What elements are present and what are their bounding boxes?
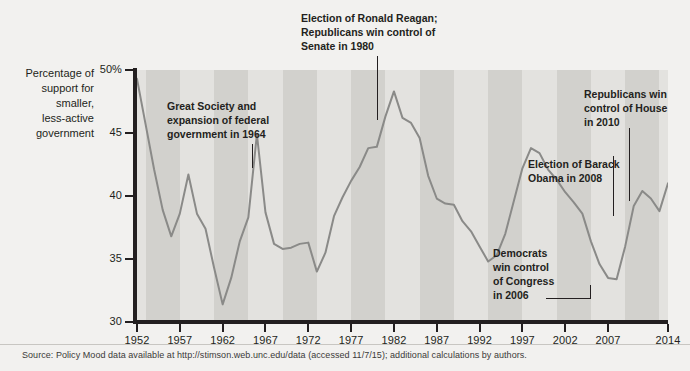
leader-line-obama bbox=[613, 156, 614, 216]
y-axis-tick-label: 45 bbox=[88, 126, 122, 138]
x-axis-tick bbox=[350, 324, 352, 332]
annotation-great-society: Great Society and expansion of federal g… bbox=[167, 99, 327, 141]
annotation-great-society-line-3: government in 1964 bbox=[167, 127, 327, 141]
y-axis-title-line-2: support for bbox=[8, 81, 94, 96]
y-axis-tick bbox=[125, 195, 133, 197]
source-note: Source: Policy Mood data available at ht… bbox=[22, 350, 527, 360]
annotation-republicans-house: Republicans win control of House in 2010 bbox=[584, 87, 684, 129]
annotation-democrats-line-1: Democrats bbox=[493, 246, 573, 260]
x-axis-tick bbox=[607, 324, 609, 332]
annotation-reagan-election: Election of Ronald Reagan; Republicans w… bbox=[301, 11, 491, 53]
y-axis-tick bbox=[125, 132, 133, 134]
annotation-democrats-congress: Democrats win control of Congress in 200… bbox=[493, 246, 573, 302]
x-axis-line bbox=[133, 320, 668, 324]
annotation-democrats-line-2: win control bbox=[493, 260, 573, 274]
x-axis-tick bbox=[667, 324, 669, 332]
annotation-great-society-line-2: expansion of federal bbox=[167, 113, 327, 127]
annotation-republicans-house-line-2: control of House bbox=[584, 101, 684, 115]
leader-line-democrats-v bbox=[590, 285, 591, 299]
x-axis-tick bbox=[307, 324, 309, 332]
leader-line-great-society bbox=[252, 144, 253, 168]
y-axis-title-line-1: Percentage of bbox=[8, 66, 94, 81]
leader-line-democrats-h bbox=[546, 298, 590, 299]
x-axis-tick bbox=[222, 324, 224, 332]
y-axis-title-line-3: smaller, bbox=[8, 96, 94, 111]
y-axis-tick-label: 30 bbox=[88, 315, 122, 327]
x-axis-tick bbox=[136, 324, 138, 332]
y-axis-tick-label: 35 bbox=[88, 252, 122, 264]
y-axis-line bbox=[133, 68, 137, 324]
annotation-obama-line-2: Obama in 2008 bbox=[528, 171, 638, 185]
y-axis-title-line-5: government bbox=[8, 126, 94, 141]
annotation-reagan-line-2: Republicans win control of bbox=[301, 25, 491, 39]
annotation-reagan-line-1: Election of Ronald Reagan; bbox=[301, 11, 491, 25]
y-axis-tick bbox=[125, 258, 133, 260]
x-axis-tick bbox=[393, 324, 395, 332]
x-axis-tick bbox=[179, 324, 181, 332]
annotation-democrats-line-3: of Congress bbox=[493, 274, 573, 288]
annotation-obama-line-1: Election of Barack bbox=[528, 157, 638, 171]
x-axis-tick bbox=[479, 324, 481, 332]
x-axis-tick bbox=[564, 324, 566, 332]
y-axis-tick-label: 50% bbox=[88, 63, 122, 75]
annotation-obama-election: Election of Barack Obama in 2008 bbox=[528, 157, 638, 185]
y-axis-tick bbox=[125, 321, 133, 323]
y-axis-title-line-4: less-active bbox=[8, 111, 94, 126]
leader-line-reagan bbox=[377, 56, 378, 120]
annotation-great-society-line-1: Great Society and bbox=[167, 99, 327, 113]
x-axis-tick bbox=[521, 324, 523, 332]
source-divider bbox=[0, 344, 690, 345]
y-axis-title: Percentage of support for smaller, less-… bbox=[8, 66, 94, 141]
x-axis-tick bbox=[264, 324, 266, 332]
annotation-republicans-house-line-1: Republicans win bbox=[584, 87, 684, 101]
x-axis-tick bbox=[436, 324, 438, 332]
policy-mood-chart-figure: Percentage of support for smaller, less-… bbox=[0, 0, 690, 371]
annotation-republicans-house-line-3: in 2010 bbox=[584, 115, 684, 129]
annotation-reagan-line-3: Senate in 1980 bbox=[301, 39, 491, 53]
annotation-democrats-line-4: in 2006 bbox=[493, 288, 573, 302]
y-axis-tick-label: 40 bbox=[88, 189, 122, 201]
y-axis-tick bbox=[125, 69, 133, 71]
